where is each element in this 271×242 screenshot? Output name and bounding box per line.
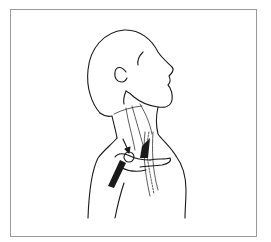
neck-crease: [114, 106, 142, 114]
neck-back: [100, 113, 117, 138]
neck-vessel-3: [140, 104, 152, 134]
chest-line: [115, 183, 124, 218]
ear-top-line: [138, 52, 143, 65]
vessel-dark-wedge: [140, 138, 150, 158]
neck-front: [157, 107, 177, 156]
jaw-line: [124, 91, 126, 104]
ear: [115, 68, 127, 83]
neck-vessel-1: [126, 108, 135, 150]
anatomical-illustration: [0, 0, 271, 242]
clavicle-lower: [122, 168, 146, 171]
neck-vessel-2: [132, 106, 143, 145]
head-outline: [88, 30, 173, 113]
arrow-head: [125, 147, 130, 153]
right-shoulder: [176, 156, 186, 218]
dotted-vessel-outline: [144, 132, 158, 196]
